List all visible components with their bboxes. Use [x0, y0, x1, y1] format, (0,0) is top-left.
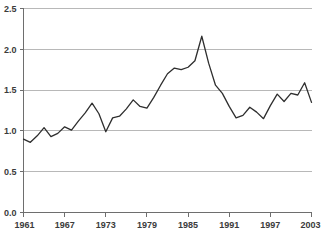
y-axis [20, 9, 24, 213]
x-axis-tick-labels: 19611967197319791985199119972003 [14, 220, 320, 230]
x-axis-tick-label: 1997 [260, 220, 280, 230]
line-chart: 0.00.51.01.52.02.5 196119671973197919851… [0, 0, 330, 243]
x-axis-tick-label: 1967 [55, 220, 75, 230]
x-axis-tick-label: 2003 [300, 220, 320, 230]
x-axis-tick-label: 1991 [219, 220, 239, 230]
y-axis-tick-label: 0.5 [4, 167, 17, 177]
y-axis-tick-label: 0.0 [4, 208, 17, 218]
x-axis-tick-label: 1985 [178, 220, 198, 230]
y-axis-tick-label: 2.0 [4, 45, 17, 55]
x-axis-tick-label: 1961 [14, 220, 34, 230]
gridlines [24, 9, 312, 172]
chart-container: 0.00.51.01.52.02.5 196119671973197919851… [0, 0, 330, 243]
y-axis-tick-label: 1.5 [4, 85, 17, 95]
series-line-1 [24, 36, 312, 142]
y-axis-tick-labels: 0.00.51.01.52.02.5 [4, 4, 17, 218]
x-axis [24, 213, 312, 217]
x-axis-tick-label: 1979 [137, 220, 157, 230]
x-axis-tick-label: 1973 [96, 220, 116, 230]
y-axis-tick-label: 2.5 [4, 4, 17, 14]
data-series [24, 36, 312, 142]
y-axis-tick-label: 1.0 [4, 126, 17, 136]
